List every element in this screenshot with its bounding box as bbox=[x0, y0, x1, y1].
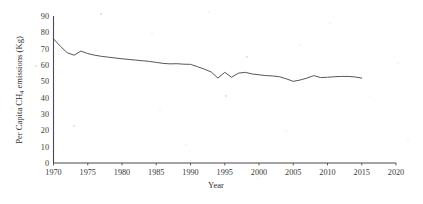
noise-speck bbox=[208, 11, 209, 12]
noise-speck bbox=[11, 107, 12, 108]
y-axis-title: Per Capita CH4 emissions (Kg) bbox=[14, 36, 25, 144]
noise-speck bbox=[159, 109, 160, 110]
noise-speck bbox=[151, 32, 152, 33]
x-axis-title: Year bbox=[208, 180, 224, 190]
noise-speck bbox=[35, 65, 37, 67]
y-tick-80: 80 bbox=[41, 28, 49, 37]
x-tick-1975: 1975 bbox=[80, 168, 96, 177]
y-tick-90: 90 bbox=[41, 12, 49, 21]
x-tick-1995: 1995 bbox=[217, 168, 233, 177]
y-axis-title-post: emissions (Kg) bbox=[14, 36, 24, 91]
line-chart: 0102030405060708090 19701975198019851990… bbox=[0, 0, 423, 204]
noise-speck bbox=[397, 62, 398, 63]
y-tick-60: 60 bbox=[41, 61, 49, 70]
y-tick-50: 50 bbox=[41, 77, 49, 86]
x-tick-1990: 1990 bbox=[182, 168, 198, 177]
noise-speck bbox=[100, 13, 102, 15]
x-tick-2010: 2010 bbox=[319, 168, 335, 177]
noise-speck bbox=[369, 95, 370, 96]
x-tick-2020: 2020 bbox=[388, 168, 404, 177]
x-tick-1980: 1980 bbox=[114, 168, 130, 177]
y-tick-40: 40 bbox=[41, 94, 49, 103]
noise-speck bbox=[225, 95, 227, 97]
chart-figure: 0102030405060708090 19701975198019851990… bbox=[0, 0, 423, 204]
y-tick-20: 20 bbox=[41, 126, 49, 135]
x-tick-1970: 1970 bbox=[45, 168, 61, 177]
x-tick-1985: 1985 bbox=[148, 168, 164, 177]
noise-speck bbox=[285, 130, 286, 131]
y-tick-10: 10 bbox=[41, 143, 49, 152]
noise-speck bbox=[329, 22, 330, 23]
noise-speck bbox=[407, 139, 408, 140]
x-tick-2015: 2015 bbox=[354, 168, 370, 177]
noise-speck bbox=[73, 125, 75, 127]
x-tick-2000: 2000 bbox=[251, 168, 267, 177]
x-tick-2005: 2005 bbox=[285, 168, 301, 177]
noise-speck bbox=[299, 44, 300, 45]
y-tick-70: 70 bbox=[41, 45, 49, 54]
noise-speck bbox=[185, 144, 186, 145]
noise-speck bbox=[257, 177, 258, 178]
noise-speck bbox=[246, 56, 248, 58]
y-axis-title-pre: Per Capita CH bbox=[14, 94, 24, 144]
y-tick-30: 30 bbox=[41, 110, 49, 119]
